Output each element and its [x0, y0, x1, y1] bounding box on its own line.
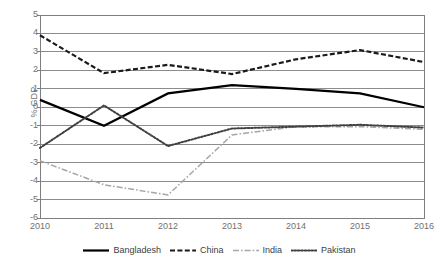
y-tick-label: -2	[20, 139, 38, 148]
legend-item-india[interactable]: India	[233, 245, 283, 255]
x-tick-label: 2012	[158, 221, 178, 231]
series-line-pakistan	[40, 105, 424, 147]
gdp-line-chart: % GDP 543210-1-2-3-4-5-6 201020112012201…	[0, 0, 439, 264]
legend-swatch-china	[170, 246, 196, 255]
y-tick-label: 4	[20, 28, 38, 37]
x-tick-label: 2011	[94, 221, 113, 231]
x-tick-label: 2013	[222, 221, 242, 231]
legend-label: Bangladesh	[113, 245, 161, 255]
plot-border	[40, 15, 424, 218]
legend-item-china[interactable]: China	[170, 245, 224, 255]
y-tick-label: -3	[20, 158, 38, 167]
legend-label: India	[263, 245, 283, 255]
legend-item-pakistan[interactable]: Pakistan	[291, 245, 356, 255]
y-tick-label: 0	[20, 102, 38, 111]
legend-label: Pakistan	[321, 245, 356, 255]
legend-label: China	[200, 245, 224, 255]
legend-swatch-bangladesh	[83, 246, 109, 255]
series-line-india	[40, 127, 424, 195]
legend-item-bangladesh[interactable]: Bangladesh	[83, 245, 161, 255]
x-tick-label: 2010	[30, 221, 50, 231]
y-tick-label: 5	[20, 10, 38, 19]
y-tick-label: -1	[20, 121, 38, 130]
x-axis-tick-labels: 2010201120122013201420152016	[0, 221, 439, 237]
chart-legend: BangladeshChinaIndiaPakistan	[0, 241, 439, 259]
series-line-bangladesh	[40, 85, 424, 126]
legend-swatch-india	[233, 246, 259, 255]
y-tick-label: 2	[20, 65, 38, 74]
y-tick-label: -4	[20, 176, 38, 185]
x-tick-label: 2014	[286, 221, 306, 231]
legend-swatch-pakistan	[291, 246, 317, 255]
series-line-china	[40, 35, 424, 74]
x-tick-label: 2016	[414, 221, 434, 231]
x-tick-label: 2015	[350, 221, 370, 231]
y-tick-label: -5	[20, 195, 38, 204]
y-tick-label: 3	[20, 47, 38, 56]
y-tick-label: 1	[20, 84, 38, 93]
